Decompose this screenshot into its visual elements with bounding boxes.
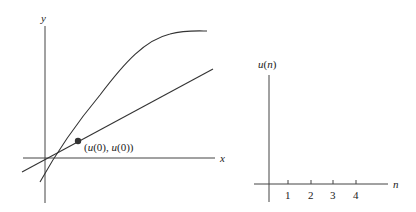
diagram-canvas: y x (u(0), u(0)) u(n) n 1 2 3 4 (0, 0, 416, 212)
tick-label-2: 2 (308, 189, 314, 201)
right-y-label: u(n) (258, 58, 277, 71)
initial-point-marker (75, 138, 81, 144)
right-plot: u(n) n 1 2 3 4 (254, 58, 399, 202)
curve (40, 31, 207, 182)
tick-label-3: 3 (330, 189, 336, 201)
left-plot: y x (u(0), u(0)) (22, 12, 225, 203)
initial-point-label: (u(0), u(0)) (84, 141, 134, 154)
tick-label-4: 4 (353, 189, 359, 201)
tangent-line (22, 69, 213, 172)
tick-label-1: 1 (285, 189, 291, 201)
left-y-label: y (40, 12, 46, 24)
right-x-label: n (393, 178, 399, 190)
left-x-label: x (219, 152, 225, 164)
